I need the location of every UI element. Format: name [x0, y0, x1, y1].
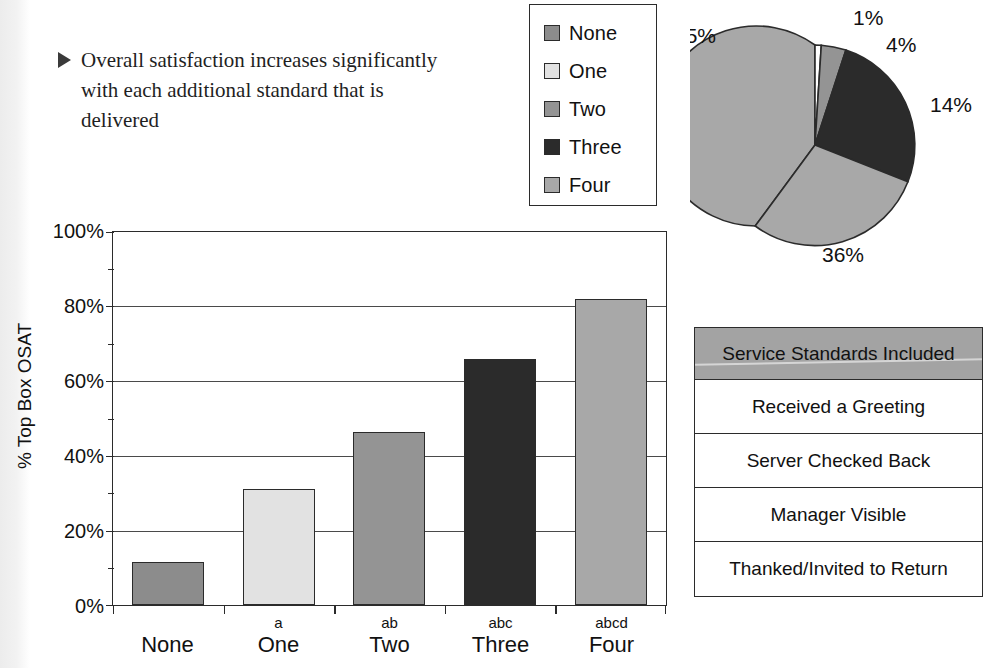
bar-slot-none: [113, 232, 224, 605]
y-tick-60: 60%: [48, 370, 104, 393]
legend-swatch-one: [544, 63, 560, 79]
table-row: Thanked/Invited to Return: [695, 542, 982, 596]
table-cell-manager-visible: Manager Visible: [771, 504, 907, 526]
pie-value-label-4: 4%: [886, 33, 916, 56]
y-tick-0: 0%: [48, 595, 104, 618]
table-header-label: Service Standards Included: [722, 343, 954, 365]
x-tick-mark: [665, 605, 666, 614]
legend-item-four: Four: [544, 166, 656, 204]
service-standards-table: Service Standards Included Received a Gr…: [694, 327, 983, 597]
x-label-slot-three: abc Three: [445, 614, 556, 658]
x-name-none: None: [112, 632, 223, 658]
legend-item-none: None: [544, 14, 656, 52]
bar-two[interactable]: [353, 432, 425, 605]
x-name-three: Three: [445, 632, 556, 658]
bar-four[interactable]: [575, 299, 647, 605]
x-sig-none: [112, 614, 223, 632]
x-label-slot-one: a One: [223, 614, 334, 658]
table-cell-received-greeting: Received a Greeting: [752, 396, 925, 418]
bar-three[interactable]: [464, 359, 536, 605]
table-header-row: Service Standards Included: [695, 328, 982, 380]
pie-chart-svg: 45% 1% 4% 14% 36%: [690, 0, 989, 290]
pie-value-label-36: 36%: [822, 243, 864, 266]
legend-swatch-three: [544, 139, 560, 155]
pie-value-label-1: 1%: [853, 6, 883, 29]
triangle-right-icon: [58, 52, 71, 68]
x-name-one: One: [223, 632, 334, 658]
table-row: Manager Visible: [695, 488, 982, 542]
x-tick-mark: [555, 605, 556, 614]
legend-label-none: None: [569, 22, 617, 45]
legend-swatch-two: [544, 101, 560, 117]
legend-swatch-none: [544, 25, 560, 41]
pie-chart: 45% 1% 4% 14% 36%: [690, 0, 989, 290]
y-tick-100: 100%: [48, 220, 104, 243]
x-label-slot-two: ab Two: [334, 614, 445, 658]
x-tick-mark: [334, 605, 335, 614]
legend-label-three: Three: [569, 136, 622, 159]
y-axis-title: % Top Box OSAT: [14, 301, 36, 491]
pie-value-label-14: 14%: [930, 93, 972, 116]
legend-item-two: Two: [544, 90, 656, 128]
bullet-statement-text: Overall satisfaction increases significa…: [81, 46, 458, 135]
y-tick-80: 80%: [48, 295, 104, 318]
table-row: Received a Greeting: [695, 380, 982, 434]
legend-item-three: Three: [544, 128, 656, 166]
chart-legend: None One Two Three Four: [529, 4, 657, 206]
table-cell-thanked-invited: Thanked/Invited to Return: [729, 558, 948, 580]
x-name-four: Four: [556, 632, 667, 658]
bar-one[interactable]: [243, 489, 315, 605]
table-row: Server Checked Back: [695, 434, 982, 488]
x-axis-labels: None a One ab Two abc Three abcd Four: [112, 614, 667, 658]
legend-label-four: Four: [569, 174, 611, 197]
bar-slot-three: [445, 232, 556, 605]
y-axis-tick-labels: 100% 80% 60% 40% 20% 0%: [40, 210, 104, 668]
bar-chart: % Top Box OSAT 100% 80% 60% 40% 20% 0%: [0, 210, 690, 668]
x-name-two: Two: [334, 632, 445, 658]
bar-slot-one: [224, 232, 335, 605]
pie-value-label-45: 45%: [690, 24, 716, 47]
legend-swatch-four: [544, 177, 560, 193]
x-sig-three: abc: [445, 614, 556, 632]
x-tick-mark: [224, 605, 225, 614]
table-cell-server-checked-back: Server Checked Back: [747, 450, 931, 472]
bar-slot-two: [334, 232, 445, 605]
x-label-slot-none: None: [112, 614, 223, 658]
x-sig-two: ab: [334, 614, 445, 632]
x-label-slot-four: abcd Four: [556, 614, 667, 658]
x-tick-mark: [445, 605, 446, 614]
legend-label-one: One: [569, 60, 607, 83]
bar-none[interactable]: [132, 562, 204, 605]
bullet-statement: Overall satisfaction increases significa…: [58, 46, 458, 135]
y-tick-20: 20%: [48, 520, 104, 543]
bars-container: [113, 232, 666, 605]
x-tick-mark: [113, 605, 114, 614]
x-sig-four: abcd: [556, 614, 667, 632]
legend-item-one: One: [544, 52, 656, 90]
legend-label-two: Two: [569, 98, 606, 121]
y-tick-40: 40%: [48, 445, 104, 468]
plot-area: [112, 231, 667, 606]
bar-slot-four: [555, 232, 666, 605]
x-sig-one: a: [223, 614, 334, 632]
